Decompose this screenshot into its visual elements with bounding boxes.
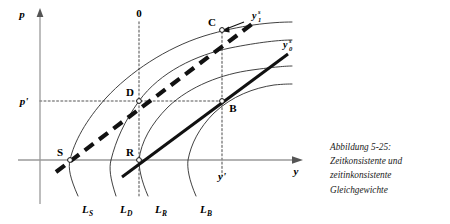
curve-label-LD: L D xyxy=(119,203,133,218)
y-axis-arrowhead xyxy=(37,8,44,17)
loss-curves-group xyxy=(69,22,292,196)
curve-label-LD-sub: D xyxy=(126,209,133,218)
point-marker-B xyxy=(220,99,225,104)
curve-label-LD-base: L xyxy=(119,203,127,215)
curve-label-LR-base: L xyxy=(154,203,162,215)
point-marker-S xyxy=(68,158,73,163)
curve-label-LS-base: L xyxy=(81,203,89,215)
price-tick-label: p' xyxy=(19,95,29,107)
supply-label-y1s: y 1 s xyxy=(251,8,261,23)
supply-label-y0s-sup: s xyxy=(288,37,292,44)
curve-label-LB-base: L xyxy=(199,203,207,215)
supply-label-y1s-sub: 1 xyxy=(258,16,261,23)
curve-label-LS-sub: S xyxy=(89,209,93,218)
point-label-D: D xyxy=(126,86,134,98)
figure-root: p y p' y' 0 C D B S R L S L D L R L B y … xyxy=(0,0,450,224)
x-axis-label: y xyxy=(292,165,299,177)
caption-line-4: Gleichgewichte xyxy=(330,183,450,197)
supply-label-y1s-sup: s xyxy=(257,8,261,15)
point-label-R: R xyxy=(126,146,135,158)
curve-label-LR: L R xyxy=(154,203,167,218)
x-axis-arrowhead xyxy=(292,156,303,164)
point-label-B: B xyxy=(229,102,237,114)
supply-label-y0s-base: y xyxy=(282,39,288,50)
supply-line-y0s xyxy=(122,54,288,177)
curve-LS xyxy=(69,22,292,196)
supply-label-y0s: y 0 s xyxy=(282,37,293,52)
point-marker-D xyxy=(137,99,142,104)
curve-label-LR-sub: R xyxy=(161,209,167,218)
y-axis-label: p xyxy=(18,8,25,20)
point-marker-R xyxy=(137,158,142,163)
point-markers xyxy=(68,28,225,163)
curve-label-LB: L B xyxy=(199,203,212,218)
curve-label-LB-sub: B xyxy=(206,209,212,218)
output-tick-label: y' xyxy=(216,170,226,182)
supply-label-y1s-base: y xyxy=(251,10,257,21)
point-label-C: C xyxy=(208,16,216,28)
point-marker-C xyxy=(220,28,225,33)
figure-caption: Abbildung 5-25: Zeitkonsistente und zeit… xyxy=(330,140,450,197)
axis-group xyxy=(18,8,303,204)
caption-line-2: Zeitkonsistente und xyxy=(330,154,450,168)
caption-line-1: Abbildung 5-25: xyxy=(330,140,450,154)
origin-marker-label: 0 xyxy=(136,7,142,19)
point-label-S: S xyxy=(57,146,63,158)
curve-label-LS: L S xyxy=(81,203,93,218)
supply-label-y0s-sub: 0 xyxy=(289,45,293,52)
caption-line-3: zeitinkonsistente xyxy=(330,168,450,182)
